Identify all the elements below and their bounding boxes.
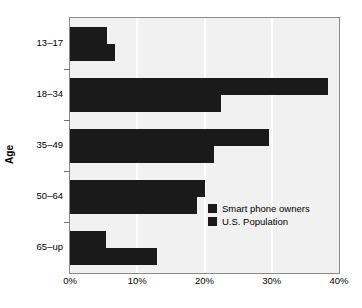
y-axis-tick-labels: 13–1718–3435–4950–6465–up [18,17,67,272]
bar [70,146,214,163]
y-axis-tick-label: 18–34 [17,89,63,99]
legend-item-us-population: U.S. Population [208,217,310,227]
x-axis-tick-labels: 0%10%20%30%40% [69,276,340,292]
y-axis-minor-tick [64,120,70,121]
bar [70,248,157,265]
bar [70,27,107,44]
legend-label-us-population: U.S. Population [222,217,288,227]
plot-area: Smart phone owners U.S. Population [69,17,340,274]
y-axis-minor-tick [64,69,70,70]
bar [70,129,269,146]
bar [70,95,221,112]
legend-swatch-us-population [208,217,217,226]
bar [70,78,328,95]
y-axis-tick-label: 50–64 [17,191,63,201]
legend: Smart phone owners U.S. Population [208,204,310,226]
bar [70,231,106,248]
legend-label-smart-phone-owners: Smart phone owners [222,204,310,214]
bar [70,180,205,197]
y-axis-tick-label: 35–49 [17,140,63,150]
bar [70,44,115,61]
x-axis-tick-label: 20% [195,276,214,286]
bar-series-container [70,18,339,273]
x-axis-tick-label: 10% [128,276,147,286]
y-axis-title-label: Age [4,145,15,164]
legend-swatch-smart-phone-owners [208,204,217,213]
bar [70,197,197,214]
y-axis-minor-tick [64,171,70,172]
y-axis-title: Age [0,0,18,308]
x-axis-tick-label: 30% [262,276,281,286]
y-axis-tick-label: 13–17 [17,38,63,48]
bar-chart: Age 13–1718–3435–4950–6465–up Smart phon… [0,0,362,308]
legend-item-smart-phone-owners: Smart phone owners [208,204,310,214]
x-axis-tick-label: 0% [63,276,77,286]
x-axis-tick-label: 40% [329,276,348,286]
y-axis-minor-tick [64,222,70,223]
y-axis-tick-label: 65–up [17,242,63,252]
